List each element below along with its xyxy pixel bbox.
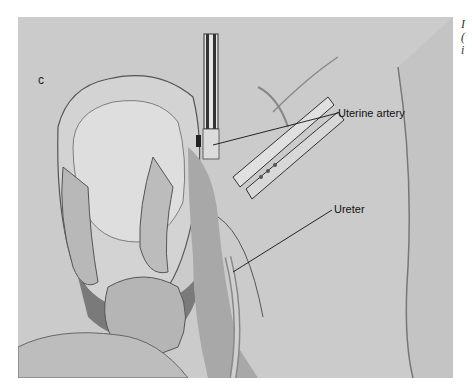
panel-letter: c: [38, 73, 44, 87]
label-uterine-artery: Uterine artery: [338, 107, 405, 119]
side-text-line-3: i: [461, 44, 464, 57]
label-ureter: Ureter: [334, 203, 365, 215]
illustration-panel: c: [18, 17, 453, 378]
surgical-illustration: [18, 17, 453, 378]
